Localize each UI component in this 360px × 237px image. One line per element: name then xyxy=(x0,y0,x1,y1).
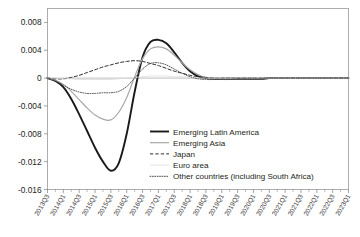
x-tick-label: 2023Q1 xyxy=(334,193,353,218)
y-tick-label: -0.008 xyxy=(18,129,42,139)
chart-canvas: 0.0080.0040-0.004-0.008-0.012-0.0162013Q… xyxy=(0,0,360,237)
y-tick-label: -0.016 xyxy=(18,185,42,195)
series-line-1 xyxy=(48,47,349,121)
y-tick-label: 0.008 xyxy=(21,17,42,27)
legend-label-1: Emerging Asia xyxy=(173,139,226,148)
legend-label-4: Other countries (including South Africa) xyxy=(173,172,314,181)
y-tick-label: 0 xyxy=(37,73,42,83)
y-tick-label: -0.004 xyxy=(18,101,42,111)
series-line-0 xyxy=(48,40,349,171)
legend-label-0: Emerging Latin America xyxy=(173,128,259,137)
line-chart: 0.0080.0040-0.004-0.008-0.012-0.0162013Q… xyxy=(0,0,360,237)
chart-legend: Emerging Latin AmericaEmerging AsiaJapan… xyxy=(150,128,314,182)
legend-label-3: Euro area xyxy=(173,161,209,170)
y-tick-label: 0.004 xyxy=(21,45,42,55)
legend-label-2: Japan xyxy=(173,150,195,159)
y-tick-label: -0.012 xyxy=(18,157,42,167)
